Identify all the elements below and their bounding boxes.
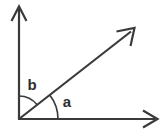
angle-b-label: b	[27, 76, 36, 93]
angle-a-arc	[50, 95, 58, 119]
angle-diagram-figure: a b	[0, 0, 162, 134]
angle-diagram-svg: a b	[0, 0, 162, 134]
angle-a-label: a	[63, 93, 72, 110]
angle-b-arc	[19, 96, 37, 105]
